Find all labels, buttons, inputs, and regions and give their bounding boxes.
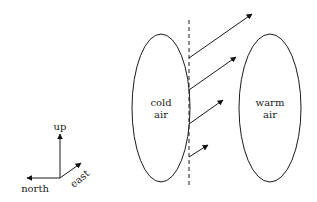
warm-air-mass (239, 34, 301, 182)
cold-air-mass (132, 34, 190, 182)
wind-arrow-1 (189, 14, 252, 58)
cold-air-label-1: cold (150, 97, 172, 108)
wind-arrow-3 (189, 100, 223, 124)
compass: up north east (21, 121, 91, 194)
wind-arrow-2 (189, 57, 236, 90)
cold-air-label-2: air (154, 109, 168, 120)
north-label: north (21, 183, 49, 194)
up-label: up (54, 121, 67, 132)
east-label: east (68, 168, 91, 190)
warm-air-label-2: air (263, 109, 277, 120)
warm-air-label-1: warm (256, 97, 285, 108)
wind-arrow-4 (189, 145, 208, 157)
air-mass-diagram: cold air warm air up north east (0, 0, 317, 202)
